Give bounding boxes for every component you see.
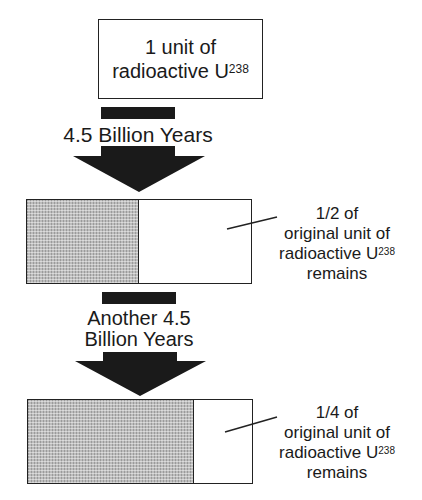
callout2-superscript: 238 [378,445,395,456]
callout1-line4: remains [262,264,412,284]
callout2-line4: remains [262,463,412,483]
callout-quarter-remains: 1/4 of original unit of radioactive U238… [262,403,412,483]
callout1-superscript: 238 [378,246,395,257]
isotope-superscript: 238 [229,62,249,76]
half-remaining-bar [26,199,252,284]
callout2-line3: radioactive U238 [262,443,412,463]
decayed-uranium-fill [28,400,194,483]
initial-box-line1: 1 unit of [145,35,216,59]
callout1-fraction: 1/2 of [262,204,412,224]
initial-box-element: radioactive U [112,60,229,82]
initial-uranium-box: 1 unit of radioactive U238 [98,19,263,99]
callout2-fraction: 1/4 of [262,403,412,423]
arrow1-shaft-top [101,107,175,119]
arrow2-label: Another 4.5 Billion Years [64,308,214,350]
arrow2-label-line1: Another 4.5 [64,308,214,329]
callout1-line3: radioactive U238 [262,244,412,264]
callout2-line2: original unit of [262,423,412,443]
arrow2-head-icon [72,352,210,398]
arrow1-label: 4.5 Billion Years [56,124,220,145]
arrow2-label-line2: Billion Years [64,329,214,350]
quarter-remaining-bar [27,399,253,484]
remaining-uranium-fill [27,200,139,283]
callout1-line2: original unit of [262,224,412,244]
callout2-element: radioactive U [279,443,378,462]
initial-box-line2: radioactive U238 [112,59,249,83]
callout1-element: radioactive U [279,244,378,263]
arrow1-head-icon [70,146,208,194]
callout-half-remains: 1/2 of original unit of radioactive U238… [262,204,412,284]
arrow2-shaft-top [102,292,176,304]
